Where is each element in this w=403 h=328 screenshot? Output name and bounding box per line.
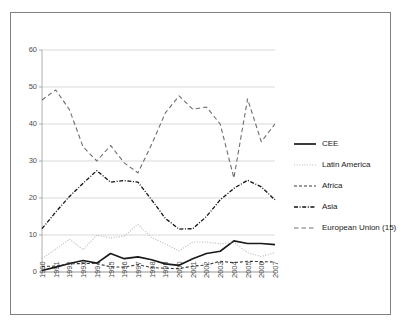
legend-label[interactable]: CEE bbox=[322, 139, 338, 148]
x-axis-tick-label: 1991 bbox=[52, 261, 61, 278]
x-axis-tick-label: 1996 bbox=[120, 261, 129, 278]
y-axis-tick-label: 60 bbox=[29, 45, 37, 54]
x-axis-tick-label: 2001 bbox=[189, 261, 198, 278]
series-group bbox=[42, 90, 275, 271]
x-axis-tick-label: 1995 bbox=[107, 261, 116, 278]
y-axis-tick-label: 10 bbox=[29, 230, 37, 239]
y-axis-tick-label: 0 bbox=[33, 267, 37, 276]
legend-label[interactable]: Asia bbox=[322, 202, 338, 211]
x-axis-tick-label: 2006 bbox=[257, 261, 266, 278]
x-axis-tick-label: 1998 bbox=[148, 261, 157, 278]
legend-label[interactable]: European Union (15) bbox=[322, 223, 397, 232]
y-axis-tick-label: 30 bbox=[29, 156, 37, 165]
series-line-european-union-15 bbox=[42, 90, 275, 178]
x-axis-tick-label: 1997 bbox=[134, 261, 143, 278]
y-axis-tick-label: 50 bbox=[29, 82, 37, 91]
legend-label[interactable]: Africa bbox=[322, 181, 343, 190]
x-axis-tick-label: 2003 bbox=[216, 261, 225, 278]
x-axis-tick-label: 2007 bbox=[271, 261, 280, 278]
x-axis-tick-label: 2005 bbox=[244, 261, 253, 278]
series-line-cee bbox=[42, 241, 275, 271]
series-line-asia bbox=[42, 171, 275, 229]
x-axis-tick-label: 2002 bbox=[202, 261, 211, 278]
y-axis-tick-label: 20 bbox=[29, 193, 37, 202]
legend-label[interactable]: Latin America bbox=[322, 160, 371, 169]
x-axis-tick-label: 2004 bbox=[230, 261, 239, 278]
line-chart: 0102030405060199019911992199319941995199… bbox=[0, 0, 403, 328]
chart-svg: 0102030405060199019911992199319941995199… bbox=[0, 0, 403, 328]
y-axis-tick-label: 40 bbox=[29, 119, 37, 128]
legend: CEELatin AmericaAfricaAsiaEuropean Union… bbox=[294, 139, 397, 232]
